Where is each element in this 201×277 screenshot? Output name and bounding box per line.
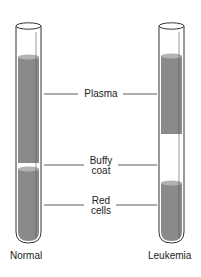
leukemia-tube-rim — [159, 23, 184, 29]
red-cells-label-line2: cells — [70, 206, 132, 216]
leukemia-tube — [159, 23, 184, 243]
diagram-canvas — [0, 0, 201, 277]
normal-caption: Normal — [10, 250, 42, 261]
normal-tube-rim — [16, 23, 41, 29]
normal-tube — [16, 23, 41, 243]
buffy-coat-label-line2: coat — [70, 166, 132, 176]
plasma-label: Plasma — [70, 89, 132, 99]
leukemia-caption: Leukemia — [148, 250, 191, 261]
leader-lines — [44, 94, 157, 205]
